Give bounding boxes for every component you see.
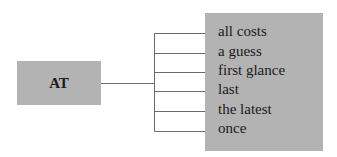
root-label: AT [49, 75, 69, 92]
branch-item: first glance [218, 61, 285, 80]
branch-item: a guess [218, 42, 262, 61]
root-node: AT [17, 61, 101, 105]
branch-item: all costs [218, 22, 267, 41]
branch-item: last [218, 80, 239, 99]
branch-item: once [218, 119, 246, 138]
branch-item: the latest [218, 100, 272, 119]
branch-list-box: all costs a guess first glance last the … [205, 13, 323, 151]
